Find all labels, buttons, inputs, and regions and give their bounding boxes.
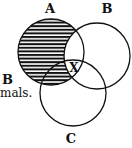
label-a: A [44,1,56,16]
marker-x: X [69,61,79,75]
side-text-b: B [2,72,13,87]
side-text-mals: mals. [0,86,32,100]
label-b: B [102,1,113,16]
venn-diagram: A B C X B mals. [0,0,132,148]
label-c: C [66,131,76,146]
